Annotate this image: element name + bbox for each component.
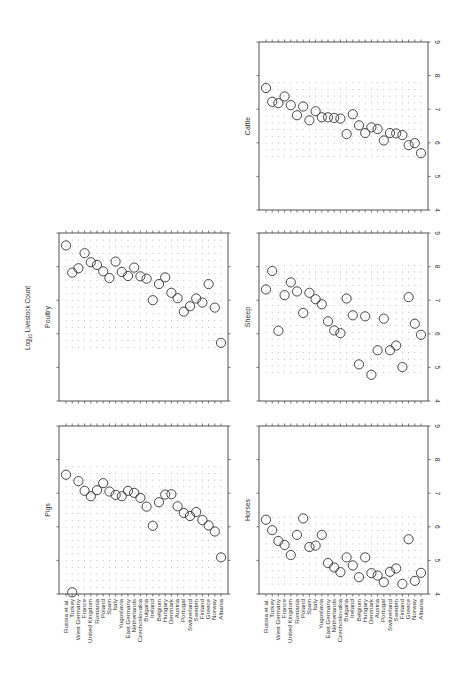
value-tick-label: 8 (434, 74, 441, 78)
value-tick-label: 6 (434, 525, 441, 529)
data-point (348, 110, 357, 119)
panel-cattle: 456789Cattle (244, 40, 441, 213)
data-point (173, 294, 182, 303)
data-point (330, 326, 339, 335)
livestock-dot-plot: 456789CattlePoultry456789SheepPigsRussia… (0, 0, 464, 674)
country-label: Albania (417, 598, 424, 619)
data-point (379, 578, 388, 587)
dotted-grid (66, 466, 222, 594)
data-points (261, 514, 425, 589)
value-tick-label: 6 (434, 141, 441, 145)
data-point (336, 568, 345, 577)
data-point (111, 257, 120, 266)
data-point (379, 136, 388, 145)
panel-title: Cattle (244, 117, 251, 135)
data-point (130, 488, 139, 497)
panel-sheep: 456789Sheep (244, 231, 441, 404)
data-point (80, 486, 89, 495)
data-points (261, 83, 425, 157)
data-point (216, 338, 225, 347)
data-point (204, 521, 213, 530)
data-point (167, 490, 176, 499)
data-point (404, 535, 413, 544)
data-point (416, 568, 425, 577)
data-point (261, 83, 270, 92)
data-point (354, 360, 363, 369)
panel-title: Poultry (44, 306, 52, 328)
country-labels: Russia et al.TurkeyWest GermanyFranceUni… (62, 598, 224, 643)
value-tick-label: 4 (434, 592, 441, 596)
data-point (416, 330, 425, 339)
data-point (274, 326, 283, 335)
panel-frame (259, 233, 428, 401)
data-point (86, 492, 95, 501)
data-point (292, 111, 301, 120)
data-point (148, 521, 157, 530)
panel-title: Horses (244, 498, 251, 521)
data-point (261, 285, 270, 294)
panel-title: Pigs (44, 503, 52, 517)
data-point (305, 116, 314, 125)
data-point (348, 561, 357, 570)
data-point (68, 268, 77, 277)
value-tick-label: 9 (434, 424, 441, 428)
data-point (117, 492, 126, 501)
data-point (142, 274, 151, 283)
data-point (336, 329, 345, 338)
data-point (367, 123, 376, 132)
data-point (154, 498, 163, 507)
data-point (179, 307, 188, 316)
data-point (404, 293, 413, 302)
data-point (311, 107, 320, 116)
data-point (299, 308, 308, 317)
panel-horses: 456789HorsesRussia et al.TurkeyWest Germ… (244, 424, 441, 644)
data-point (410, 319, 419, 328)
data-point (261, 515, 270, 524)
data-point (136, 272, 145, 281)
data-point (74, 264, 83, 273)
value-tick-label: 6 (434, 332, 441, 336)
data-point (61, 470, 70, 479)
panel-poultry: Poultry (44, 231, 231, 404)
data-point (167, 288, 176, 297)
data-point (61, 241, 70, 250)
dotted-grid (266, 265, 422, 373)
data-point (130, 263, 139, 272)
data-point (385, 346, 394, 355)
data-point (398, 362, 407, 371)
data-point (354, 121, 363, 130)
value-tick-label: 8 (434, 458, 441, 462)
value-tick-label: 4 (434, 399, 441, 403)
data-point (299, 514, 308, 523)
data-point (323, 317, 332, 326)
panel-frame (259, 42, 428, 210)
value-tick-label: 4 (434, 208, 441, 212)
data-points (61, 241, 225, 348)
data-point (323, 558, 332, 567)
data-point (336, 114, 345, 123)
dotted-grid (66, 240, 222, 348)
data-point (268, 266, 277, 275)
data-point (86, 258, 95, 267)
data-point (185, 302, 194, 311)
data-point (404, 141, 413, 150)
data-point (361, 312, 370, 321)
country-labels: Russia et al.TurkeyWest GermanyFranceUni… (262, 598, 424, 643)
panel-pigs: PigsRussia et al.TurkeyWest GermanyFranc… (44, 424, 231, 644)
value-tick-label: 7 (434, 298, 441, 302)
dotted-grid (266, 82, 422, 157)
data-point (317, 300, 326, 309)
data-point (373, 124, 382, 133)
data-point (268, 97, 277, 106)
data-point (210, 303, 219, 312)
data-point (105, 273, 114, 282)
value-tick-label: 7 (434, 491, 441, 495)
data-point (367, 569, 376, 578)
data-point (210, 527, 219, 536)
value-axis-title: Log10 Livestock Count (24, 286, 33, 350)
data-point (123, 486, 132, 495)
panel-title: Sheep (244, 307, 252, 327)
value-tick-label: 7 (434, 107, 441, 111)
value-tick-label: 9 (434, 40, 441, 44)
data-point (367, 370, 376, 379)
